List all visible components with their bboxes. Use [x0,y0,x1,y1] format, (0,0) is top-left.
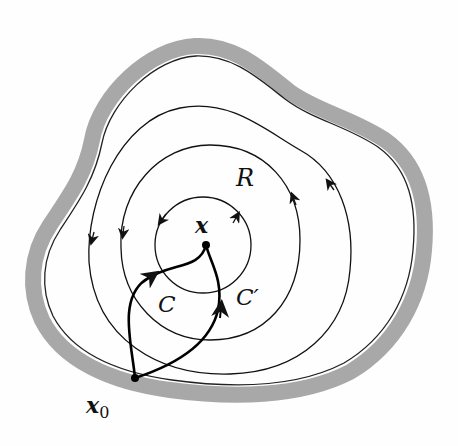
middle-contour-arrow-left [123,226,124,234]
region-label: R [236,166,254,190]
diagram-canvas: R x C C′ x0 [0,0,458,446]
path-c-prime [135,245,219,378]
outer-contour-arrow-right [329,183,334,190]
base-point-label: x0 [86,394,109,417]
middle-contour [121,145,300,340]
path-c-prime-label: C′ [236,286,259,309]
base-point-symbol: x [86,392,99,418]
diagram-svg [0,0,458,446]
path-c-label: C [158,293,176,316]
base-point-subscript: 0 [99,403,109,422]
path-c-prime-arrow [220,308,221,318]
point-x0-dot [131,374,139,382]
inner-circle-arrow-left [161,214,166,221]
path-c-arrow [142,276,152,283]
point-x-label: x [195,214,208,236]
inner-circle-arrow-right [233,216,237,223]
outer-contour [89,106,351,374]
outer-contour-arrow-left [92,232,94,240]
point-x-dot [202,241,210,249]
